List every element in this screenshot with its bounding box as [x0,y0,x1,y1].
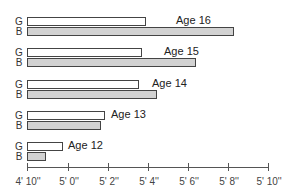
age-label: Age 14 [152,77,187,89]
boys-bar [27,152,46,161]
age-label: Age 16 [176,14,211,26]
boys-bar [27,27,234,36]
x-axis-line [27,167,269,168]
x-axis-tick-label: 5' 2'' [89,176,129,187]
girls-bar [27,17,146,26]
x-axis-tick-label: 5' 0'' [49,176,89,187]
girls-bar [27,142,63,151]
boys-bar [27,121,101,130]
girls-bar [27,80,139,89]
age-label: Age 13 [111,108,146,120]
age-label: Age 12 [68,139,103,151]
boys-bar [27,90,157,99]
age-label: Age 15 [164,45,199,57]
girls-bar [27,111,105,120]
boys-row-label: B [14,90,24,100]
boys-row-label: B [14,152,24,162]
bar-group-age-14: GBAge 14 [0,80,283,100]
bar-group-age-13: GBAge 13 [0,111,283,131]
bar-group-age-15: GBAge 15 [0,48,283,68]
bar-group-age-12: GBAge 12 [0,142,283,162]
x-axis-tick-label: 5' 8'' [209,176,249,187]
x-axis-tick-label: 4' 10'' [8,176,48,187]
boys-row-label: B [14,58,24,68]
girls-bar [27,48,142,57]
boys-bar [27,58,196,67]
x-axis-tick-label: 5' 6'' [169,176,209,187]
boys-row-label: B [14,121,24,131]
boys-row-label: B [14,27,24,37]
x-axis-tick-label: 5' 10'' [249,176,283,187]
x-axis-tick-label: 5' 4'' [129,176,169,187]
bar-group-age-16: GBAge 16 [0,17,283,37]
